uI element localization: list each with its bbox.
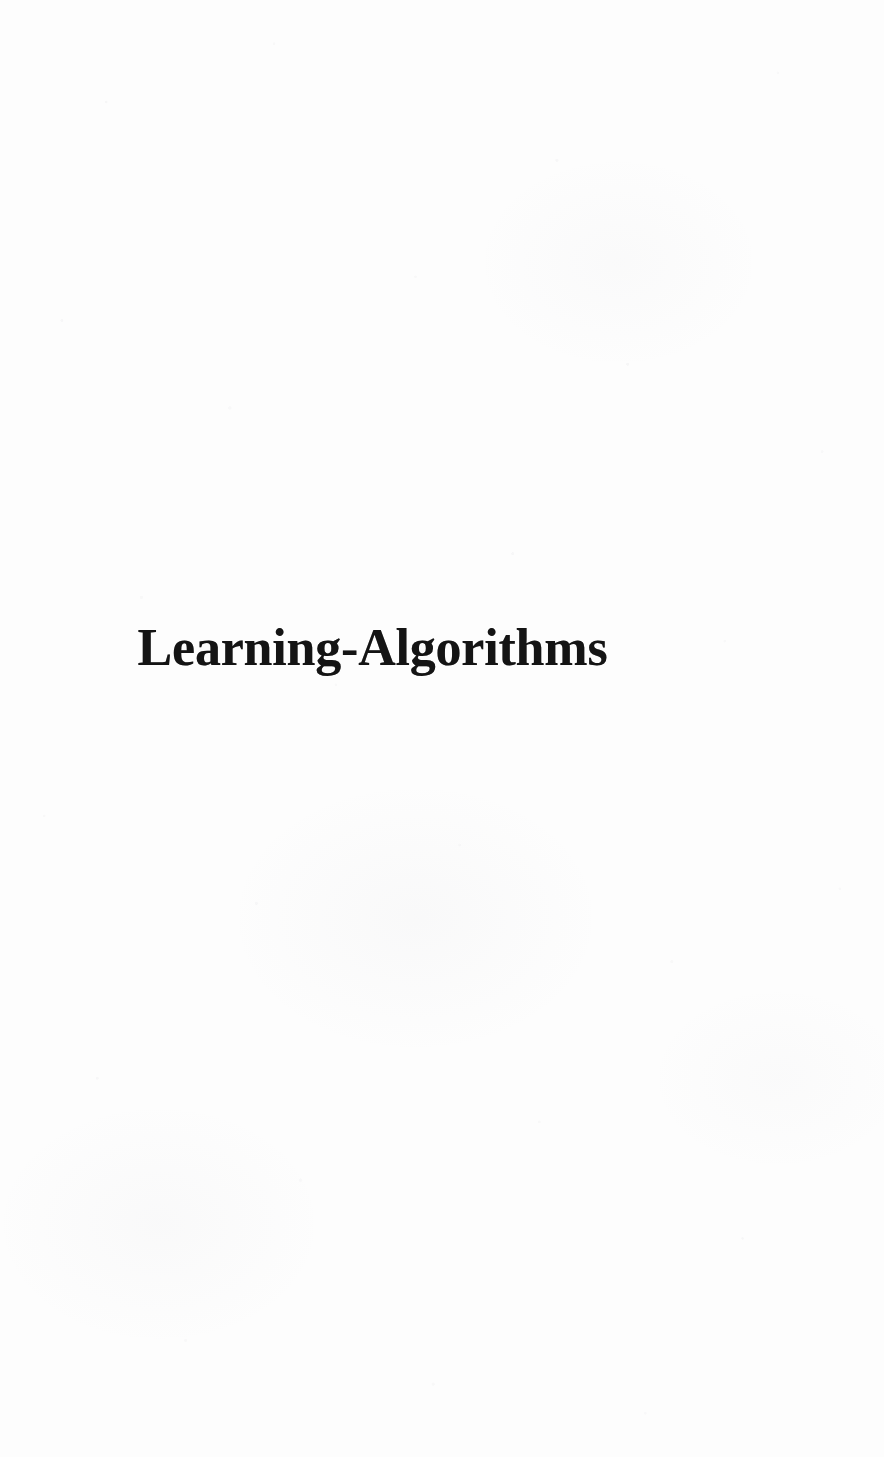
- paper-smudge-texture: [0, 0, 884, 1457]
- title-block: Learning-Algorithms: [0, 620, 745, 676]
- page-title: Learning-Algorithms: [138, 620, 608, 676]
- scanned-page: Learning-Algorithms: [0, 0, 884, 1457]
- paper-grain-texture: [0, 0, 884, 1457]
